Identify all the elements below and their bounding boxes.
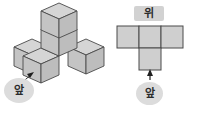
front-label-right: 앞 xyxy=(136,82,163,105)
grid-cell-r1c1 xyxy=(139,48,161,70)
front-label-left: 앞 xyxy=(4,78,34,103)
top-label-wi: 위 xyxy=(134,6,164,21)
isometric-cube-solid xyxy=(0,0,108,122)
front-arrow-right xyxy=(147,69,153,80)
grid-cell-r0c2 xyxy=(161,26,183,48)
isometric-cube-svg xyxy=(0,0,108,122)
cube-stack-upper xyxy=(41,3,77,38)
grid-cell-r0c0 xyxy=(117,26,139,48)
grid-cell-r0c1 xyxy=(139,26,161,48)
figure-canvas: 위 앞 앞 xyxy=(0,0,200,122)
